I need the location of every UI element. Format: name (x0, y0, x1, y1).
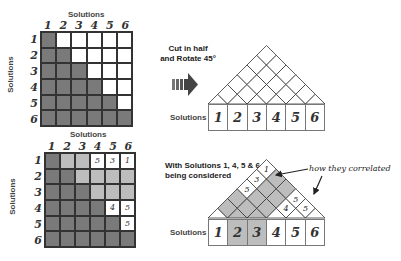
bottom-matrix-cell (75, 216, 90, 232)
bottom-row-label-1: 1 (32, 152, 44, 168)
top-matrix-cell (87, 63, 102, 79)
bottom-matrix-cell (75, 169, 90, 185)
bottom-matrix-cell (45, 169, 60, 185)
solution-cell-6: 6 (306, 220, 324, 245)
top-matrix-cell (71, 32, 86, 48)
top-row-label-3: 3 (28, 63, 40, 79)
top-matrix-cell (102, 95, 117, 111)
solution-cell-1: 1 (209, 220, 228, 245)
bottom-col-label-5: 5 (105, 140, 120, 152)
top-matrix-cell (117, 110, 132, 126)
solution-cell-4: 4 (267, 105, 286, 130)
bottom-matrix-cell (45, 153, 60, 169)
top-matrix-cell (102, 63, 117, 79)
bottom-matrix-cell (60, 153, 75, 169)
top-matrix-cell (56, 95, 71, 111)
top-matrix-cell (102, 32, 117, 48)
bottom-matrix-title: Solutions (70, 130, 106, 139)
top-row-label-1: 1 (28, 31, 40, 47)
top-matrix-cell (87, 95, 102, 111)
top-matrix-row-labels: 123456 (28, 31, 40, 127)
triangle-cell-value: 3 (254, 175, 259, 184)
bottom-col-label-3: 3 (75, 140, 90, 152)
solution-cell-2: 2 (228, 105, 247, 130)
bottom-matrix-cell (45, 231, 60, 247)
solution-cell-2: 2 (228, 220, 247, 245)
bottom-matrix-cell (105, 184, 120, 200)
top-matrix-cell (87, 79, 102, 95)
bottom-matrix-grid: 531455 (44, 152, 136, 248)
solution-cell-4: 4 (267, 220, 286, 245)
bottom-matrix-cell: 5 (120, 216, 135, 232)
top-col-label-4: 4 (87, 19, 103, 31)
bottom-row-label-4: 4 (32, 200, 44, 216)
bottom-row-label-5: 5 (32, 216, 44, 232)
bottom-matrix-cell (45, 216, 60, 232)
bottom-matrix-cell (45, 200, 60, 216)
top-matrix-cell (117, 32, 132, 48)
bottom-matrix-row-axis-label: Solutions (8, 178, 17, 214)
top-col-label-6: 6 (118, 19, 134, 31)
top-matrix-cell (117, 79, 132, 95)
top-matrix-cell (41, 110, 56, 126)
solution-cell-3: 3 (248, 220, 267, 245)
top-matrix-cell (102, 110, 117, 126)
bottom-matrix-cell: 1 (120, 153, 135, 169)
bottom-matrix-cell (120, 231, 135, 247)
bottom-matrix-cell (75, 231, 90, 247)
bottom-matrix-cell: 5 (90, 153, 105, 169)
bottom-matrix-cell (60, 231, 75, 247)
solution-cell-5: 5 (286, 220, 305, 245)
top-matrix-cell (71, 110, 86, 126)
bottom-matrix-cell: 4 (105, 200, 120, 216)
top-triangle-diagram (200, 40, 332, 106)
bottom-matrix-cell (90, 169, 105, 185)
bottom-col-label-1: 1 (44, 140, 59, 152)
top-matrix-cell (56, 79, 71, 95)
solution-cell-3: 3 (248, 105, 267, 130)
bottom-matrix-cell (75, 153, 90, 169)
top-matrix-cell (41, 95, 56, 111)
annotation-arrows-icon (270, 166, 340, 198)
bottom-row-label-6: 6 (32, 232, 44, 248)
bottom-matrix-cell (90, 216, 105, 232)
bottom-triangle-solutions-row: 123456 (208, 219, 325, 246)
top-matrix-row-axis-label: Solutions (6, 56, 15, 92)
top-matrix-cell (87, 110, 102, 126)
top-matrix-cell (71, 63, 86, 79)
top-matrix-title: Solutions (68, 10, 104, 19)
bottom-matrix-cell (45, 184, 60, 200)
top-matrix-cell (56, 110, 71, 126)
solution-cell-6: 6 (306, 105, 324, 130)
bottom-matrix-cell (105, 231, 120, 247)
bottom-matrix-cell: 3 (105, 153, 120, 169)
bottom-matrix-cell (60, 184, 75, 200)
top-row-label-5: 5 (28, 95, 40, 111)
bottom-matrix-cell (90, 231, 105, 247)
top-matrix-cell (41, 79, 56, 95)
top-row-label-4: 4 (28, 79, 40, 95)
bottom-matrix-cell (120, 169, 135, 185)
top-matrix-cell (71, 95, 86, 111)
top-matrix-cell (41, 63, 56, 79)
bottom-matrix-cell: 5 (120, 200, 135, 216)
top-matrix-cell (117, 63, 132, 79)
bottom-matrix-cell (90, 184, 105, 200)
top-triangle-solutions-row: 123456 (208, 104, 325, 131)
bottom-col-label-2: 2 (59, 140, 74, 152)
top-col-label-5: 5 (102, 19, 118, 31)
top-col-label-3: 3 (71, 19, 87, 31)
triangle-cell-value: 5 (303, 204, 308, 213)
bottom-matrix-cell (75, 200, 90, 216)
top-matrix-cell (71, 79, 86, 95)
bottom-triangle-row-label: Solutions (170, 228, 206, 237)
top-col-label-2: 2 (56, 19, 72, 31)
top-matrix-cell (41, 48, 56, 64)
bottom-matrix-cell (105, 216, 120, 232)
right-arrow-icon (170, 70, 200, 100)
bottom-matrix-row-labels: 123456 (32, 152, 44, 248)
top-matrix-cell (71, 48, 86, 64)
bottom-row-label-2: 2 (32, 168, 44, 184)
top-triangle-row-label: Solutions (170, 113, 206, 122)
triangle-cell-value: 4 (282, 204, 288, 213)
